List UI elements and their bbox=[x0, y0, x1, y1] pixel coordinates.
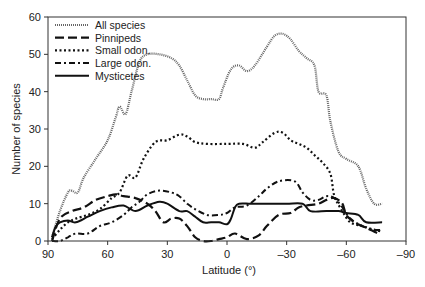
y-tick-label: 60 bbox=[29, 11, 41, 23]
x-tick-label: 60 bbox=[102, 248, 114, 260]
y-axis-label: Number of species bbox=[10, 83, 22, 175]
x-axis-label: Latitude (°) bbox=[202, 264, 256, 276]
x-tick-label: –30 bbox=[277, 248, 295, 260]
x-tick-label: 90 bbox=[42, 248, 54, 260]
legend: All speciesPinnipedsSmall odon.Large odo… bbox=[55, 19, 151, 82]
legend-label: All species bbox=[95, 19, 145, 31]
x-tick-label: –60 bbox=[337, 248, 355, 260]
legend-label: Small odon. bbox=[95, 44, 150, 56]
legend-label: Large odon. bbox=[95, 57, 151, 69]
line-chart: 0102030405060 9060300–30–60–90 Latitude … bbox=[0, 0, 425, 287]
y-tick-label: 0 bbox=[35, 235, 41, 247]
y-axis: 0102030405060 bbox=[29, 11, 48, 247]
legend-label: Mysticetes bbox=[95, 70, 145, 82]
x-axis: 9060300–30–60–90 bbox=[42, 241, 415, 260]
x-tick-label: 30 bbox=[161, 248, 173, 260]
y-tick-label: 30 bbox=[29, 123, 41, 135]
y-tick-label: 50 bbox=[29, 48, 41, 60]
series-mysticetes bbox=[52, 202, 382, 238]
x-tick-label: 0 bbox=[224, 248, 230, 260]
y-tick-label: 20 bbox=[29, 160, 41, 172]
series-pinnipeds bbox=[52, 194, 378, 241]
legend-label: Pinnipeds bbox=[95, 32, 141, 44]
y-tick-label: 40 bbox=[29, 86, 41, 98]
y-tick-label: 10 bbox=[29, 198, 41, 210]
x-tick-label: –90 bbox=[397, 248, 415, 260]
